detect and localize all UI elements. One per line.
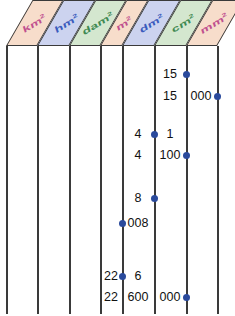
digit-group: 000 bbox=[185, 88, 217, 104]
unit-marker-dot bbox=[183, 152, 190, 159]
value-row: 15000 bbox=[0, 88, 235, 104]
unit-header-band: km2hm2dam2m2dm2cm2mm2 bbox=[0, 0, 235, 48]
unit-marker-dot bbox=[119, 273, 126, 280]
digit-group: 1 bbox=[154, 126, 186, 142]
digit-group: 008 bbox=[122, 215, 154, 231]
unit-marker-dot bbox=[183, 294, 190, 301]
digit-group: 4 bbox=[122, 126, 154, 142]
value-row: 41 bbox=[0, 126, 235, 142]
value-row: 226 bbox=[0, 268, 235, 284]
unit-marker-dot bbox=[119, 220, 126, 227]
value-row: 008 bbox=[0, 215, 235, 231]
digit-group: 15 bbox=[154, 88, 186, 104]
value-row: 4100 bbox=[0, 147, 235, 163]
digit-group: 4 bbox=[122, 147, 154, 163]
digit-group: 6 bbox=[122, 268, 154, 284]
value-row: 8 bbox=[0, 190, 235, 206]
unit-marker-dot bbox=[151, 131, 158, 138]
digit-group: 8 bbox=[122, 190, 154, 206]
digit-group: 600 bbox=[122, 289, 154, 305]
value-row: 22600000 bbox=[0, 289, 235, 305]
digit-group: 000 bbox=[154, 289, 186, 305]
value-row: 15 bbox=[0, 66, 235, 82]
unit-marker-dot bbox=[183, 71, 190, 78]
digit-group: 100 bbox=[154, 147, 186, 163]
digit-group: 15 bbox=[154, 66, 186, 82]
unit-conversion-figure: km2hm2dam2m2dm2cm2mm2 151500041410080082… bbox=[0, 0, 235, 316]
unit-marker-dot bbox=[151, 195, 158, 202]
unit-marker-dot bbox=[214, 93, 221, 100]
